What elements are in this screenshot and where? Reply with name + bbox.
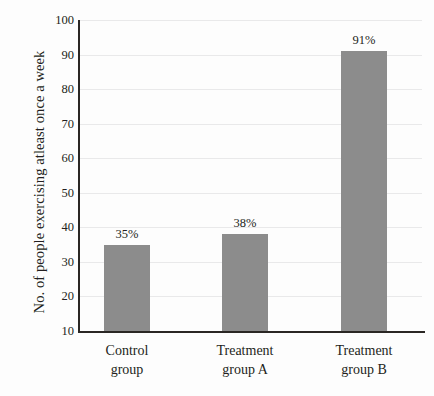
y-axis-tick-label: 10: [44, 325, 74, 338]
bar[interactable]: [222, 234, 268, 331]
bar[interactable]: [104, 245, 150, 331]
bar-chart: No. of people exercising atleast once a …: [0, 0, 434, 396]
bar-value-label: 35%: [87, 228, 167, 241]
x-axis-category-line: group B: [304, 360, 424, 379]
x-axis-line: [78, 331, 425, 333]
x-axis-category-line: group: [67, 360, 187, 379]
y-axis-tick-label: 70: [44, 118, 74, 131]
bar[interactable]: [341, 51, 387, 331]
y-axis-tick-label: 20: [44, 290, 74, 303]
y-axis-tick-label: 50: [44, 187, 74, 200]
gridline: [80, 20, 422, 21]
x-axis-category-line: Control: [67, 341, 187, 360]
bar-value-label: 91%: [324, 34, 404, 47]
x-axis-category-labels: ControlgroupTreatmentgroup ATreatmentgro…: [78, 341, 425, 391]
y-axis-tick-label: 60: [44, 152, 74, 165]
y-axis-tick-label: 30: [44, 256, 74, 269]
y-axis-line: [78, 20, 80, 333]
x-axis-category-line: group A: [185, 360, 305, 379]
x-axis-category-label: Controlgroup: [67, 341, 187, 379]
y-axis-tick-labels: 102030405060708090100: [40, 20, 74, 333]
y-axis-tick-label: 40: [44, 221, 74, 234]
x-axis-category-label: Treatmentgroup A: [185, 341, 305, 379]
bar-value-label: 38%: [205, 217, 285, 230]
y-axis-tick-label: 100: [44, 14, 74, 27]
x-axis-category-label: Treatmentgroup B: [304, 341, 424, 379]
y-axis-tick-label: 80: [44, 83, 74, 96]
x-axis-category-line: Treatment: [304, 341, 424, 360]
plot-area: 35%38%91%: [78, 20, 425, 333]
x-axis-category-line: Treatment: [185, 341, 305, 360]
y-axis-tick-label: 90: [44, 49, 74, 62]
